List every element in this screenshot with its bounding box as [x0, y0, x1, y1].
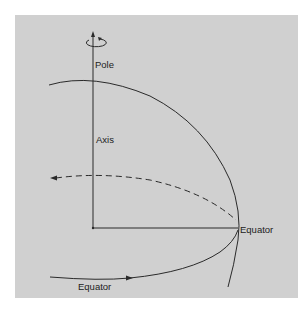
arrow-up-icon: [91, 31, 95, 37]
arrow-right-icon: [126, 276, 133, 281]
equator-right-label: Equator: [240, 225, 273, 235]
equator-curve: [50, 230, 238, 279]
equator-bottom-label: Equator: [78, 282, 111, 292]
equator-radius-line: [92, 227, 238, 229]
pole-label: Pole: [95, 60, 114, 70]
earth-diagram: [0, 0, 307, 309]
dashed-latitude-curve: [56, 175, 236, 220]
arrow-left-icon: [50, 176, 57, 181]
axis-label: Axis: [96, 135, 114, 145]
rotation-arrow-icon: [86, 37, 106, 47]
meridian-arc: [49, 80, 239, 287]
